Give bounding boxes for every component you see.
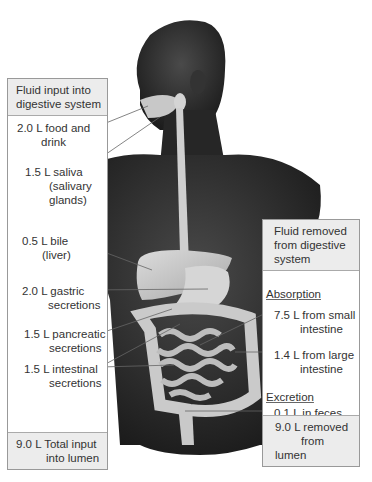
input-item-food: 2.0 L food and drink — [17, 121, 90, 149]
amount-label: 1.5 L pancreatic — [24, 328, 105, 340]
excretion-heading: Excretion — [266, 390, 314, 404]
fluid-input-header: Fluid input into digestive system — [8, 79, 107, 116]
fluid-removed-header: Fluid removed from digestive system — [263, 220, 359, 271]
removed-item-large-intestine: 1.4 L from large intestine — [274, 348, 354, 376]
label-cont: (salivary — [25, 179, 92, 193]
amount-label: 1.4 L from large — [274, 349, 354, 361]
header-line: from digestive — [274, 239, 346, 251]
header-line: system — [274, 253, 310, 265]
total-removed-footer: 9.0 L removed from lumen — [263, 415, 359, 466]
label-cont: intestine — [274, 322, 355, 336]
header-line: digestive system — [16, 98, 101, 110]
header-line: Fluid removed — [274, 225, 347, 237]
label-cont: secretions — [22, 298, 100, 312]
amount-label: 2.0 L gastric — [22, 285, 84, 297]
footer-line: from lumen — [275, 435, 324, 461]
digestive-fluid-diagram: Fluid input into digestive system 2.0 L … — [0, 0, 372, 482]
label-cont: intestine — [274, 362, 354, 376]
label-cont: (liver) — [22, 248, 71, 262]
input-item-gastric: 2.0 L gastric secretions — [22, 284, 100, 312]
amount-label: 7.5 L from small — [274, 309, 355, 321]
footer-line: into lumen — [16, 452, 99, 464]
amount-label: 2.0 L food and — [17, 122, 90, 134]
footer-line: 9.0 L removed — [275, 421, 348, 433]
amount-label: 0.5 L bile — [22, 235, 68, 247]
input-item-bile: 0.5 L bile (liver) — [22, 234, 71, 262]
input-item-saliva: 1.5 L saliva (salivary glands) — [25, 165, 92, 207]
fluid-input-panel: Fluid input into digestive system 2.0 L … — [7, 78, 108, 470]
label-cont: secretions — [24, 341, 105, 355]
amount-label: 1.5 L saliva — [25, 166, 83, 178]
input-item-intestinal: 1.5 L intestinal secretions — [24, 362, 101, 390]
label-cont: drink — [17, 135, 90, 149]
fluid-removed-panel: Fluid removed from digestive system Abso… — [262, 219, 360, 467]
amount-label: 1.5 L intestinal — [24, 363, 98, 375]
input-item-pancreatic: 1.5 L pancreatic secretions — [24, 327, 105, 355]
label-cont: secretions — [24, 376, 101, 390]
label-cont: glands) — [25, 193, 92, 207]
footer-line: 9.0 L Total input — [16, 438, 97, 450]
absorption-heading: Absorption — [266, 287, 321, 301]
header-line: Fluid input into — [16, 84, 91, 96]
total-input-footer: 9.0 L Total input into lumen — [8, 432, 107, 469]
removed-item-small-intestine: 7.5 L from small intestine — [274, 308, 355, 336]
